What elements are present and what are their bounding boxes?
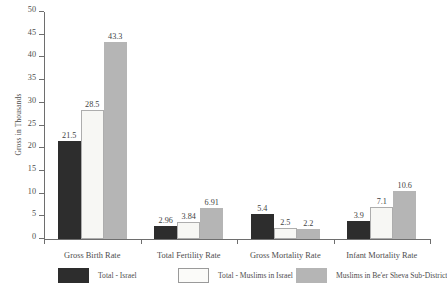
y-axis-tick: 25 — [39, 125, 44, 126]
bar-value-label: 10.6 — [398, 181, 412, 190]
x-axis-tick — [430, 239, 431, 244]
bar-value-label: 2.96 — [159, 216, 173, 225]
legend-label: Muslims in Be'er Sheva Sub-District — [336, 271, 447, 280]
y-axis-tick-label: 50 — [28, 5, 36, 14]
legend-swatch — [296, 268, 327, 283]
x-axis-tick — [237, 239, 238, 244]
bar: 5.4 — [251, 214, 274, 239]
bar: 6.91 — [200, 208, 223, 239]
y-axis-tick-label: 0 — [32, 232, 36, 241]
bar: 21.5 — [58, 141, 81, 239]
y-axis-tick: 30 — [39, 102, 44, 103]
y-axis-tick: 40 — [39, 56, 44, 57]
bar: 28.5 — [81, 110, 104, 239]
bar-value-label: 21.5 — [62, 131, 76, 140]
y-axis-tick: 35 — [39, 79, 44, 80]
x-axis-category-label: Gross Mortality Rate — [250, 251, 321, 260]
y-axis-tick-label: 40 — [28, 50, 36, 59]
y-axis-tick: 5 — [39, 215, 44, 216]
x-axis-tick — [44, 239, 45, 244]
y-axis-line — [44, 12, 45, 239]
bar-value-label: 43.3 — [108, 32, 122, 41]
bar-value-label: 2.2 — [303, 219, 313, 228]
bar-value-label: 28.5 — [85, 100, 99, 109]
x-axis-tick — [141, 239, 142, 244]
bar-value-label: 3.9 — [354, 211, 364, 220]
bar: 2.2 — [297, 229, 320, 239]
y-axis-tick-label: 30 — [28, 96, 36, 105]
chart-legend: Total - IsraelTotal - Muslims in IsraelM… — [0, 268, 436, 302]
y-axis-tick-label: 5 — [32, 209, 36, 218]
x-axis-tick — [334, 239, 335, 244]
bar-value-label: 7.1 — [377, 197, 387, 206]
y-axis-tick-label: 25 — [28, 119, 36, 128]
y-axis-title: Gross in Thousands — [14, 55, 23, 195]
bar: 2.96 — [154, 226, 177, 239]
legend-item[interactable]: Total - Muslims in Israel — [178, 268, 293, 283]
bar: 3.9 — [347, 221, 370, 239]
y-axis-tick: 10 — [39, 193, 44, 194]
y-axis-tick: 50 — [39, 11, 44, 12]
legend-swatch — [58, 268, 89, 283]
y-axis-tick: 45 — [39, 34, 44, 35]
x-axis-category-label: Gross Birth Rate — [64, 251, 120, 260]
bar: 10.6 — [393, 191, 416, 239]
x-axis-category-label: Infant Mortality Rate — [346, 251, 417, 260]
bar-value-label: 5.4 — [257, 204, 267, 213]
x-axis-category-label: Total Fertility Rate — [157, 251, 221, 260]
bar-value-label: 2.5 — [280, 218, 290, 227]
y-axis-tick: 20 — [39, 147, 44, 148]
legend-item[interactable]: Muslims in Be'er Sheva Sub-District — [296, 268, 447, 283]
bar-value-label: 3.84 — [182, 212, 196, 221]
legend-label: Total - Muslims in Israel — [218, 271, 293, 280]
y-axis-tick-label: 20 — [28, 141, 36, 150]
y-axis-tick-label: 10 — [28, 187, 36, 196]
bar: 43.3 — [104, 42, 127, 239]
y-axis-tick-label: 35 — [28, 73, 36, 82]
y-axis-tick-label: 15 — [28, 164, 36, 173]
legend-item[interactable]: Total - Israel — [58, 268, 137, 283]
bar: 3.84 — [177, 222, 200, 239]
legend-swatch — [178, 268, 209, 283]
bar: 2.5 — [274, 228, 297, 239]
plot-area: 0510152025303540455021.528.543.3Gross Bi… — [44, 12, 430, 239]
legend-label: Total - Israel — [98, 271, 137, 280]
y-axis-tick: 15 — [39, 170, 44, 171]
y-axis-tick-label: 45 — [28, 28, 36, 37]
bar-value-label: 6.91 — [205, 198, 219, 207]
bar: 7.1 — [370, 207, 393, 239]
